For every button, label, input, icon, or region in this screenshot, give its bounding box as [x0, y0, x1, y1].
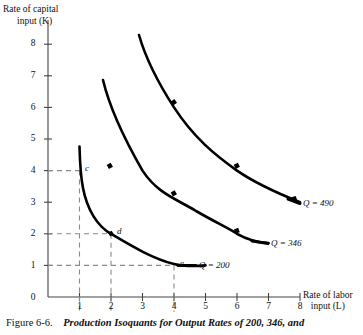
- leader-q490: [288, 199, 300, 204]
- y-tick-label-2: 2: [26, 228, 40, 238]
- guide-lines: [48, 171, 174, 312]
- figure-caption-title: Production Isoquants for Output Rates of…: [63, 317, 304, 328]
- x-tick-label-4: 4: [167, 301, 181, 311]
- figure-container: Rate of capital input (K) Rate of labor …: [0, 0, 363, 335]
- isoquant-curve-q346: [103, 80, 269, 243]
- curve-label-q490: Q = 490: [303, 198, 334, 208]
- curve-label-q346-text: Q = 346: [271, 238, 302, 248]
- curve-label-q200-text: Q = 200: [199, 260, 230, 270]
- curve-label-q346: Q = 346: [271, 238, 302, 248]
- marker-q346-2: [171, 190, 177, 196]
- isoquant-curve-q490: [139, 35, 300, 202]
- leader-q346: [252, 241, 268, 244]
- y-tick-label-5: 5: [26, 133, 40, 143]
- curve-label-q200: Q = 200: [199, 260, 230, 270]
- point-label-c: c: [85, 163, 89, 173]
- x-tick-label-7: 7: [262, 301, 276, 311]
- point-label-e: e: [180, 258, 184, 268]
- point-label-d: d: [117, 226, 122, 236]
- curve-label-q490-text: Q = 490: [303, 198, 334, 208]
- y-tick-label-6: 6: [26, 102, 40, 112]
- y-tick-label-4: 4: [26, 165, 40, 175]
- marker-q346-1: [107, 163, 113, 169]
- y-tick-label-1: 1: [26, 260, 40, 270]
- x-tick-label-6: 6: [230, 301, 244, 311]
- curve-data-markers: [107, 99, 298, 236]
- figure-caption: Figure 6-6. Production Isoquants for Out…: [0, 316, 363, 330]
- y-tick-label-7: 7: [26, 70, 40, 80]
- x-tick-label-3: 3: [136, 301, 150, 311]
- origin-label: 0: [26, 292, 40, 302]
- x-tick-label-2: 2: [104, 301, 118, 311]
- x-tick-label-1: 1: [73, 301, 87, 311]
- y-tick-label-8: 8: [26, 38, 40, 48]
- x-tick-label-8: 8: [293, 301, 307, 311]
- x-tick-label-5: 5: [199, 301, 213, 311]
- y-tick-label-3: 3: [26, 197, 40, 207]
- figure-number: Figure 6-6.: [6, 317, 53, 328]
- isoquant-plot: [0, 0, 363, 335]
